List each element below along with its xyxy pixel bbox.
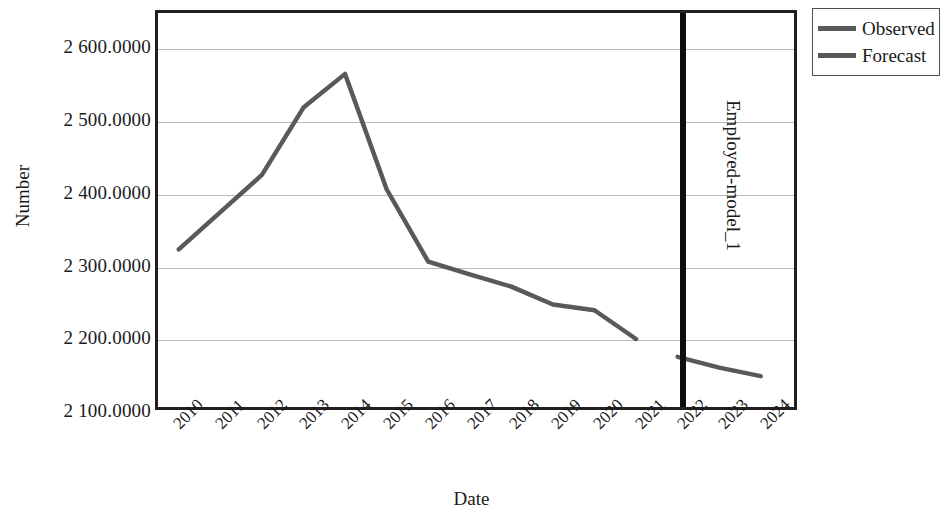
y-axis-tick-label: 2 200.0000 [1,328,151,347]
y-axis-tick-label: 2 500.0000 [1,110,151,129]
plot-area [155,10,797,410]
plot-inner [158,13,794,407]
legend-item-label: Observed [862,19,935,38]
legend-line-swatch-icon [818,53,856,58]
legend-line-swatch-icon [818,26,856,31]
y-axis-title: Number [12,151,34,241]
legend-item-label: Forecast [862,46,926,65]
data-series-layer [158,13,794,407]
x-axis-tick-labels: 2010201120122013201420152016201720182019… [155,412,797,482]
x-axis-title: Date [0,488,943,510]
y-axis-tick-label: 2 100.0000 [1,401,151,420]
forecast-divider [680,13,686,407]
y-axis-tick-label: 2 600.0000 [1,37,151,56]
legend-item[interactable]: Forecast [818,42,933,69]
chart-legend: ObservedForecast [812,8,940,76]
y-axis-tick-label: 2 300.0000 [1,255,151,274]
series-line-forecast [678,357,761,376]
legend-item[interactable]: Observed [818,15,933,42]
series-line-observed [179,74,636,339]
chart-figure: 2 100.00002 200.00002 300.00002 400.0000… [0,0,943,522]
right-axis-title: Employed-model_1 [722,100,744,420]
